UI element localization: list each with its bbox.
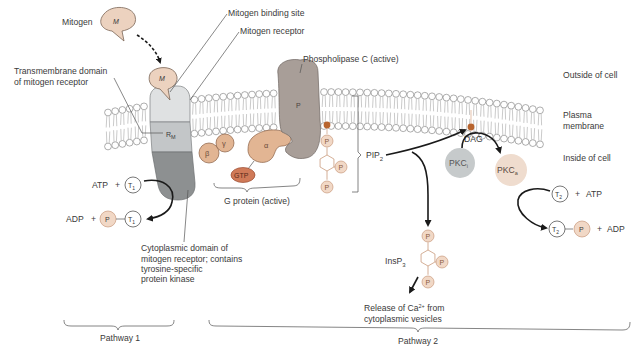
pkc-inactive: PKCi [445,148,475,178]
insp3-to-calcium-arrow [410,277,418,292]
lipid [508,102,515,143]
cytoplasmic-domain-label-4: protein kinase [141,274,195,284]
lipid [241,92,248,133]
lipid [234,92,241,133]
lipid [371,89,378,130]
receptor-extracellular [150,86,190,122]
t1-plus-2: + [91,214,96,224]
dag-dot [468,124,475,131]
pkc-active: PKCa [495,154,527,186]
lipid [198,95,205,136]
binding-site-leader [170,14,227,92]
t2-plus: + [575,189,580,199]
plasma-membrane-label-2: membrane [563,121,604,131]
t2-reaction: T2 + ATP T2 P + ADP [518,186,625,237]
plc-symbol: P [296,102,301,109]
lipid [342,89,349,130]
pathway-1-label: Pathway 1 [100,333,140,343]
mitogen-binding-site-label: Mitogen binding site [228,8,305,18]
lipid [414,92,421,133]
insp3-molecule: PPP [421,230,448,288]
lipid [270,90,277,131]
pip2-label: PIP2 [366,150,384,162]
lipid [364,89,371,130]
alpha-symbol: α [264,141,269,150]
mitogen-bound-symbol: M [159,75,165,82]
lipid [112,108,119,149]
lipid [385,90,392,131]
mitogen-receptor-label: Mitogen receptor [240,26,305,36]
lipid [263,90,270,131]
release-ca-label-1: Release of Ca2+ from [364,303,444,313]
pip2-brace [352,96,361,192]
lipid [220,93,227,134]
cytoplasmic-domain-label-3: tyrosine-specific [141,264,203,274]
release-ca-label-2: cytoplasmic vesicles [364,314,442,324]
lipid [400,91,407,132]
g-protein-brace [214,178,300,192]
lipid [133,104,140,145]
pkc-inactive-label: PKCi [449,158,468,169]
g-protein-label: G protein (active) [224,196,290,206]
pathway-2-label: Pathway 2 [398,336,438,346]
pip2-molecule: PPP [320,122,347,193]
lipid [213,94,220,135]
pip2-ring: PPP [320,135,347,193]
lipid [126,105,133,146]
lipid [105,109,112,150]
gtp-link [248,161,254,169]
lipid [378,90,385,131]
pip2-glycerol-dot [324,122,331,129]
lipid [450,95,457,136]
receptor-leader [190,32,239,100]
mitogen-receptor: RM [150,86,195,200]
t1-phosphate-symbol: P [105,216,110,223]
cytoplasmic-domain-label-2: mitogen receptor; contains [141,254,242,264]
pip2-to-insp3-arrow [412,152,428,225]
mitogen-free: M [101,7,136,41]
g-protein-alpha [248,130,291,162]
plasma-membrane-label-1: Plasma [563,110,592,120]
transmembrane-domain-label-2: of mitogen receptor [14,77,88,87]
t1-plus: + [115,180,120,190]
pathway-1-brace [64,320,174,330]
t1-reaction: ATP + T1 ADP + P T1 [66,177,173,227]
lipid [349,89,356,130]
insp3-label: InsP3 [385,256,406,268]
lipid [465,97,472,138]
outside-of-cell-label: Outside of cell [563,70,618,80]
lipid [493,100,500,141]
lipid [429,93,436,134]
lipid [529,106,536,147]
lipid [205,95,212,136]
lipid [522,105,529,146]
inositol-ring [421,250,435,266]
mitogen-symbol: M [113,18,119,25]
lipid [421,92,428,133]
lipid [191,96,198,137]
inositol-ring [320,155,334,171]
lipid [141,103,148,144]
lipid [335,89,342,130]
phospholipase-c-label: Phospholipase C (active) [303,54,399,64]
svg-text:P: P [439,259,444,266]
gamma-symbol: γ [222,139,226,148]
receptor-cytoplasmic-kinase-domain [152,152,195,200]
pkc-phosphorylates-t2-arrow [518,189,550,228]
lipid [407,91,414,132]
t1-adp: ADP [66,214,84,224]
beta-symbol: β [205,149,210,158]
lipid [486,99,493,140]
lipid [256,91,263,132]
t1-atp: ATP [92,180,108,190]
lipid [227,93,234,134]
mitogen-binding-arrow [137,35,160,62]
t2-adp: ADP [607,224,625,234]
lipid [393,90,400,131]
lipid [537,107,544,148]
svg-text:P: P [425,279,430,286]
lipid [119,107,126,148]
lipid [501,101,508,142]
mitogen-label: Mitogen [62,17,93,27]
t2-atp: ATP [586,189,602,199]
